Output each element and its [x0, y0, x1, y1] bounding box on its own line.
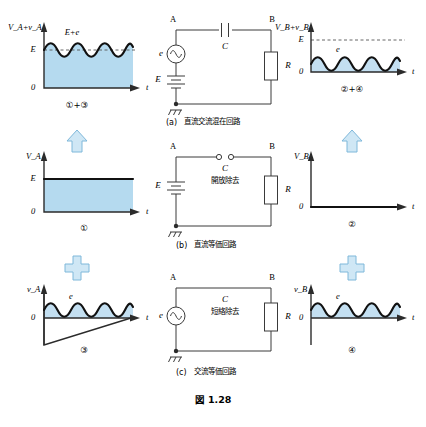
chart-c-right-ylabel: v_B	[294, 284, 307, 294]
circuit-c-junction-dot	[174, 349, 178, 353]
chart-a-right-x-arrow	[397, 69, 407, 76]
circuit-a-battery-label: E	[154, 74, 161, 84]
circuit-a-caption-index: (a)	[166, 118, 177, 127]
chart-c-left: v_A 0 t e ③	[27, 284, 149, 355]
circuit-b-junction-dot	[174, 224, 178, 228]
up-arrow-right	[342, 130, 362, 152]
circuit-a-ground-icon	[169, 110, 183, 115]
chart-c-left-circled-label: ③	[80, 345, 88, 355]
circuit-c-ac-source-label: e	[159, 310, 163, 320]
chart-b-left-circled-label: ①	[80, 223, 88, 233]
circuit-a-resistor-label: R	[284, 60, 291, 70]
circuit-b-node-a-label: A	[170, 141, 177, 151]
chart-b-right-ytick-0: 0	[299, 201, 304, 211]
chart-c-left-ytick-0: 0	[31, 312, 36, 322]
chart-b-right-axes	[311, 155, 398, 207]
chart-b-right-ylabel: V_B	[294, 151, 309, 161]
circuit-b-capacitor-label: C	[222, 163, 229, 173]
chart-c-right-ytick-0: 0	[299, 312, 304, 322]
figure-1-28: V_A+v_A E 0 t E+e ①+③ C A B e E	[0, 0, 426, 427]
chart-a-left-y-arrow	[41, 22, 47, 32]
circuit-b-caption-index: (b)	[176, 241, 187, 250]
circuit-a-caption-text: 直流交流混在回路	[184, 116, 241, 126]
circuit-b-resistor	[265, 176, 278, 204]
chart-b-left-ytick-E: E	[29, 173, 36, 183]
chart-b-left-ylabel: V_A	[26, 151, 41, 161]
circuit-b-battery-label: E	[154, 180, 161, 190]
chart-b-left-y-arrow	[41, 151, 47, 161]
chart-a-left-ytick-E: E	[29, 44, 36, 54]
chart-c-left-xlabel: t	[146, 312, 149, 322]
chart-a-left: V_A+v_A E 0 t E+e ①+③	[8, 22, 149, 110]
chart-a-left-ytick-0: 0	[31, 82, 36, 92]
chart-a-right-ytick-0: 0	[299, 66, 304, 76]
chart-a-right-ytick-E: E	[297, 34, 304, 44]
circuit-b: C 開放除去 A B E R (b) 直流等価回路	[154, 141, 291, 250]
circuit-a-resistor	[265, 52, 278, 80]
chart-a-right: V_B+v_B E 0 t e ②+④	[275, 22, 415, 94]
circuit-b-open-terminal-left	[216, 154, 221, 159]
circuit-c-note: 短絡除去	[211, 306, 240, 316]
circuit-c-caption-text: 交流等価回路	[194, 366, 237, 376]
chart-a-left-curve-label: E+e	[64, 27, 80, 37]
chart-b-right-circled-label: ②	[348, 219, 356, 229]
circuit-c-node-b-label: B	[269, 272, 275, 282]
chart-c-right-xlabel: t	[412, 312, 415, 322]
chart-a-right-circled-label: ②+④	[341, 84, 363, 94]
plus-sign-left	[65, 256, 89, 280]
chart-b-right: V_B 0 t ②	[294, 151, 415, 229]
up-arrow-left	[67, 130, 87, 152]
figure-caption: 図 1.28	[195, 394, 232, 405]
plus-sign-right	[340, 256, 364, 280]
chart-c-left-curve-label: e	[69, 291, 73, 301]
circuit-b-caption-text: 直流等価回路	[194, 239, 237, 249]
chart-c-left-x-arrow	[130, 315, 140, 322]
chart-b-left-fill	[44, 179, 133, 212]
circuit-c-capacitor-label: C	[222, 294, 229, 304]
circuit-c-node-a-label: A	[170, 272, 177, 282]
chart-b-right-y-arrow	[308, 151, 314, 161]
chart-a-right-xlabel: t	[412, 66, 415, 76]
chart-c-right-circled-label: ④	[348, 345, 356, 355]
chart-a-left-xlabel: t	[146, 82, 149, 92]
chart-b-left: V_A E 0 t ①	[26, 151, 149, 233]
chart-b-left-ytick-0: 0	[31, 206, 36, 216]
chart-a-right-y-arrow	[308, 22, 314, 32]
circuit-a-ac-source-label: e	[159, 48, 163, 58]
chart-c-left-ylabel: v_A	[27, 284, 41, 294]
chart-a-left-ylabel: V_A+v_A	[8, 22, 42, 32]
chart-c-right-y-arrow	[308, 284, 314, 294]
chart-b-right-x-arrow	[397, 204, 407, 211]
chart-c-right-x-arrow	[397, 315, 407, 322]
circuit-c-ground-icon	[169, 357, 183, 362]
chart-c-right: v_B 0 t e ④	[294, 284, 415, 355]
circuit-c-resistor	[265, 303, 278, 331]
circuit-b-resistor-label: R	[284, 184, 291, 194]
chart-c-right-curve-label: e	[336, 291, 340, 301]
circuit-c: C 短絡除去 A B e R (c) 交流等価回路	[159, 272, 291, 377]
chart-b-right-xlabel: t	[412, 201, 415, 211]
chart-a-left-x-arrow	[130, 85, 140, 92]
circuit-a-junction-dot	[174, 102, 178, 106]
circuit-b-ground-icon	[169, 232, 183, 237]
chart-a-left-circled-label: ①+③	[66, 100, 88, 110]
circuit-b-note: 開放除去	[211, 175, 240, 185]
circuit-b-node-b-label: B	[269, 141, 275, 151]
circuit-c-resistor-label: R	[284, 311, 291, 321]
chart-a-right-ylabel: V_B+v_B	[275, 22, 309, 32]
chart-a-right-curve-label: e	[336, 44, 340, 54]
circuit-b-open-terminal-right	[228, 154, 233, 159]
circuit-a-node-a-label: A	[170, 14, 177, 24]
circuit-a-capacitor-label: C	[222, 41, 229, 51]
chart-b-left-xlabel: t	[146, 206, 149, 216]
chart-b-left-x-arrow	[130, 209, 140, 216]
circuit-a: C A B e E R (a) 直流交流混在回路	[154, 14, 291, 127]
chart-c-left-y-arrow	[41, 284, 47, 294]
circuit-c-caption-index: (c)	[176, 368, 187, 377]
